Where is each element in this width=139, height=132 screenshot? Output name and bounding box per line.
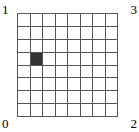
grid-cell xyxy=(81,66,94,79)
grid-cell xyxy=(56,78,69,91)
grid-cell xyxy=(43,27,56,40)
grid-cell xyxy=(106,91,119,104)
grid-cell xyxy=(43,53,56,66)
grid-cell xyxy=(93,78,106,91)
grid-cell xyxy=(43,78,56,91)
grid-cell xyxy=(68,104,81,117)
grid-cell xyxy=(56,14,69,27)
grid-cell xyxy=(93,40,106,53)
grid-figure: 1 3 0 2 xyxy=(0,0,139,132)
grid-cell xyxy=(81,91,94,104)
grid-cell xyxy=(68,66,81,79)
grid-cell xyxy=(43,66,56,79)
grid-cell xyxy=(43,40,56,53)
grid-cell xyxy=(43,91,56,104)
grid-cell xyxy=(93,91,106,104)
grid-cell xyxy=(18,53,31,66)
grid-cell xyxy=(56,66,69,79)
corner-label-top-left: 1 xyxy=(2,3,9,16)
grid-cell xyxy=(43,104,56,117)
grid-cell xyxy=(93,66,106,79)
grid-cell xyxy=(81,14,94,27)
grid-cell xyxy=(18,27,31,40)
grid-cell xyxy=(81,40,94,53)
grid-cell xyxy=(18,104,31,117)
grid-cell xyxy=(81,104,94,117)
grid-cell xyxy=(106,78,119,91)
grid-cell xyxy=(56,53,69,66)
grid-cell xyxy=(31,14,44,27)
grid-cell xyxy=(56,40,69,53)
corner-label-bottom-left: 0 xyxy=(2,117,9,130)
grid-cell xyxy=(93,104,106,117)
grid-cell xyxy=(18,91,31,104)
grid-cell xyxy=(68,78,81,91)
grid-cell xyxy=(68,91,81,104)
grid-cell xyxy=(68,40,81,53)
grid-cell xyxy=(31,104,44,117)
grid-cell xyxy=(56,27,69,40)
grid-cell xyxy=(93,14,106,27)
grid-cell xyxy=(68,14,81,27)
corner-label-bottom-right: 2 xyxy=(131,117,138,130)
grid-cell xyxy=(56,104,69,117)
grid-cell xyxy=(106,104,119,117)
grid-cell-filled xyxy=(31,53,44,66)
grid xyxy=(17,13,118,117)
grid-cell xyxy=(31,40,44,53)
grid-cell xyxy=(106,66,119,79)
grid-cell xyxy=(31,66,44,79)
grid-cell xyxy=(68,27,81,40)
grid-cell xyxy=(106,27,119,40)
grid-cell xyxy=(43,14,56,27)
grid-cell xyxy=(18,78,31,91)
grid-cell xyxy=(81,27,94,40)
corner-label-top-right: 3 xyxy=(131,3,138,16)
grid-cell xyxy=(68,53,81,66)
grid-container xyxy=(17,13,118,117)
grid-cell xyxy=(31,91,44,104)
grid-cell xyxy=(18,14,31,27)
grid-cell xyxy=(18,66,31,79)
grid-cell xyxy=(81,78,94,91)
grid-cell xyxy=(31,27,44,40)
grid-cell xyxy=(93,27,106,40)
grid-cell xyxy=(18,40,31,53)
grid-cell xyxy=(31,78,44,91)
grid-cell xyxy=(106,40,119,53)
grid-cell xyxy=(106,14,119,27)
grid-cell xyxy=(93,53,106,66)
grid-cell xyxy=(81,53,94,66)
grid-cell xyxy=(106,53,119,66)
grid-cell xyxy=(56,91,69,104)
